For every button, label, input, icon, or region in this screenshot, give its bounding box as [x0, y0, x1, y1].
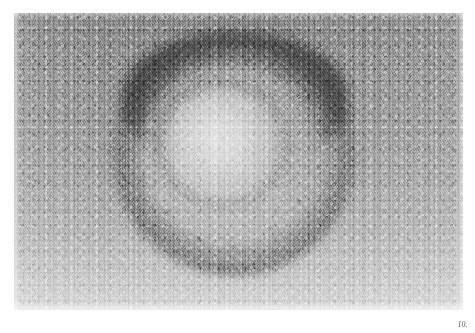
virus-particle — [14, 13, 463, 310]
electron-micrograph-image — [14, 13, 463, 310]
capsomere-speckle — [132, 51, 332, 255]
figure-plate: 10. — [0, 0, 475, 333]
figure-number-caption: 10. — [457, 321, 468, 329]
